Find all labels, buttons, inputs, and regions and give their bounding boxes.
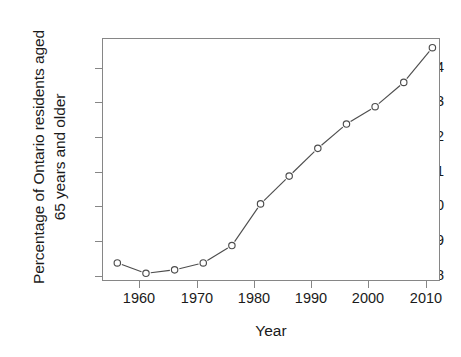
x-tick-mark	[197, 281, 198, 288]
x-tick-label: 2010	[396, 290, 456, 306]
series-segment	[179, 264, 198, 269]
data-point-marker	[229, 242, 235, 248]
series-segment	[151, 270, 170, 272]
y-axis-title-container: Percentage of Ontario residents aged 65 …	[0, 0, 80, 310]
y-tick-mark	[95, 68, 102, 69]
y-axis-title-line-1: Percentage of Ontario residents aged	[28, 7, 49, 307]
y-tick-mark	[95, 206, 102, 207]
data-point-marker	[286, 173, 292, 179]
y-tick-mark	[95, 276, 102, 277]
x-tick-label: 1980	[224, 290, 284, 306]
data-point-marker	[257, 201, 263, 207]
plot-inner	[103, 39, 439, 280]
series-segment	[235, 208, 258, 242]
series-segment	[407, 51, 430, 78]
y-axis-title: Percentage of Ontario residents aged 65 …	[28, 7, 72, 307]
x-tick-mark	[426, 281, 427, 288]
series-segment	[351, 109, 371, 121]
y-axis-title-line-2: 65 years and older	[49, 7, 70, 307]
x-tick-label: 1970	[167, 290, 227, 306]
data-point-marker	[171, 267, 177, 273]
x-tick-mark	[254, 281, 255, 288]
series-segment	[264, 179, 286, 200]
data-point-marker	[315, 145, 321, 151]
x-tick-mark	[311, 281, 312, 288]
chart-figure: Percentage of Ontario residents aged 65 …	[0, 0, 461, 357]
data-point-marker	[343, 121, 349, 127]
plot-area	[102, 38, 440, 281]
y-tick-mark	[95, 172, 102, 173]
x-axis-title: Year	[102, 322, 440, 340]
data-point-marker	[372, 103, 378, 109]
y-tick-mark	[95, 137, 102, 138]
series-segment	[293, 152, 315, 173]
data-point-marker	[401, 79, 407, 85]
x-tick-mark	[368, 281, 369, 288]
series-segment	[379, 86, 400, 104]
series-segment	[122, 265, 142, 272]
y-tick-mark	[95, 102, 102, 103]
data-point-marker	[143, 270, 149, 276]
series-segment	[207, 248, 227, 260]
series-segment	[321, 127, 342, 145]
x-tick-label: 1960	[109, 290, 169, 306]
data-point-marker	[429, 44, 435, 50]
data-point-marker	[200, 260, 206, 266]
y-tick-mark	[95, 241, 102, 242]
x-tick-mark	[139, 281, 140, 288]
x-tick-label: 2000	[338, 290, 398, 306]
data-point-marker	[114, 260, 120, 266]
x-tick-label: 1990	[281, 290, 341, 306]
data-series-line	[103, 39, 441, 282]
